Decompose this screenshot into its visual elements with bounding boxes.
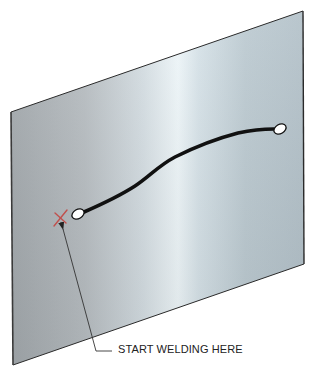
metal-plate	[11, 11, 304, 365]
callout-label: START WELDING HERE	[118, 343, 243, 355]
weld-diagram: START WELDING HERE	[0, 0, 315, 370]
